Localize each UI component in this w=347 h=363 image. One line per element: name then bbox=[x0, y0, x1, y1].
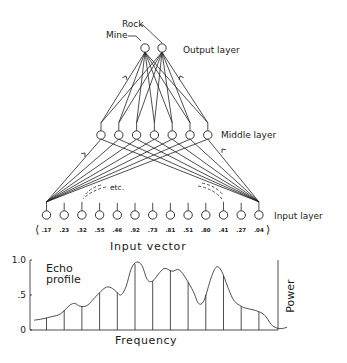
y-tick-label: 0 bbox=[20, 325, 26, 335]
echo-profile-chart: 0.51.0 Echo profile Frequency Power bbox=[12, 255, 297, 347]
hidden-output-connection bbox=[145, 52, 208, 123]
input-node bbox=[131, 211, 139, 219]
input-vector-value: .46 bbox=[112, 227, 122, 233]
input-hidden-connection bbox=[47, 139, 102, 202]
mine-pointer bbox=[128, 36, 141, 41]
input-hidden-connection bbox=[190, 139, 259, 202]
chart-title-line2: profile bbox=[46, 273, 81, 286]
input-vector-value: .04 bbox=[254, 227, 264, 233]
middle-layer-label: Middle layer bbox=[221, 130, 276, 140]
input-node bbox=[202, 211, 210, 219]
input-vector-value: .81 bbox=[166, 227, 176, 233]
input-hidden-connection bbox=[47, 139, 208, 202]
middle-node bbox=[150, 131, 158, 139]
input-hidden-connection bbox=[101, 139, 259, 202]
arrow-icon bbox=[122, 75, 128, 80]
etc-dashed-arrow-right-2 bbox=[202, 183, 223, 195]
input-vector-value: .55 bbox=[95, 227, 105, 233]
hidden-output-connection bbox=[145, 52, 190, 123]
middle-node bbox=[132, 131, 140, 139]
middle-node bbox=[186, 131, 194, 139]
middle-node bbox=[204, 131, 212, 139]
y-tick-label: .5 bbox=[17, 290, 26, 300]
input-layer-label: Input layer bbox=[274, 211, 323, 221]
input-node bbox=[60, 211, 68, 219]
input-vector-value: .41 bbox=[219, 227, 229, 233]
input-vector-value: .23 bbox=[59, 227, 69, 233]
input-vector-value: .92 bbox=[130, 227, 140, 233]
input-vector-value: .27 bbox=[236, 227, 246, 233]
output-node-mine bbox=[141, 44, 149, 52]
input-vector-value: .80 bbox=[201, 227, 211, 233]
x-axis-label: Frequency bbox=[115, 334, 177, 347]
middle-node bbox=[97, 131, 105, 139]
rock-label: Rock bbox=[122, 19, 144, 29]
middle-node bbox=[115, 131, 123, 139]
input-hidden-connection bbox=[119, 139, 259, 202]
input-hidden-connection bbox=[47, 139, 191, 202]
mine-label: Mine bbox=[106, 30, 128, 40]
y-axis-label: Power bbox=[284, 279, 297, 313]
input-hidden-connection bbox=[47, 139, 119, 202]
input-node bbox=[255, 211, 263, 219]
vector-close-bracket: ⟩ bbox=[266, 223, 270, 236]
arrow-icon bbox=[220, 147, 226, 153]
etc-label: etc. bbox=[110, 183, 124, 192]
input-vector-values: .17.23.32.55.46.92.73.81.51.80.41.27.04 bbox=[42, 227, 264, 233]
output-layer-label: Output layer bbox=[183, 45, 240, 55]
input-hidden-connection bbox=[47, 139, 173, 202]
input-node bbox=[166, 211, 174, 219]
input-node bbox=[184, 211, 192, 219]
y-ticks: 0.51.0 bbox=[12, 255, 32, 335]
input-hidden-connection bbox=[154, 139, 259, 202]
neural-network-diagram: Rock Mine Output layer Middle layer Inpu… bbox=[0, 0, 347, 363]
input-vector-value: .32 bbox=[77, 227, 87, 233]
input-vector-label: Input vector bbox=[110, 240, 186, 253]
input-node bbox=[113, 211, 121, 219]
input-node bbox=[42, 211, 50, 219]
input-hidden-connection bbox=[137, 139, 259, 202]
input-node bbox=[149, 211, 157, 219]
y-tick-label: 1.0 bbox=[12, 255, 27, 265]
input-vector-value: .73 bbox=[148, 227, 158, 233]
middle-node bbox=[168, 131, 176, 139]
vector-open-bracket: ⟨ bbox=[35, 223, 39, 236]
input-node bbox=[95, 211, 103, 219]
output-node-rock bbox=[158, 44, 166, 52]
hidden-output-connection bbox=[162, 52, 208, 123]
input-node bbox=[78, 211, 86, 219]
input-vector-value: .51 bbox=[183, 227, 193, 233]
input-vector-value: .17 bbox=[42, 227, 52, 233]
input-node bbox=[219, 211, 227, 219]
input-node bbox=[237, 211, 245, 219]
input-hidden-connection bbox=[47, 139, 155, 202]
etc-dashed-arrow-right bbox=[198, 186, 222, 199]
